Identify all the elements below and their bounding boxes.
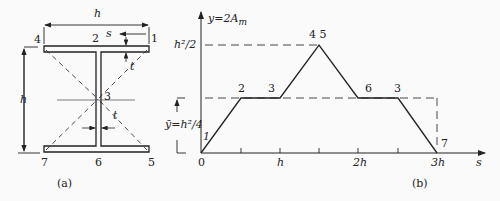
caption-a: (a) xyxy=(57,177,72,190)
flange-thickness-label: t xyxy=(130,60,135,73)
level-high-label: h²/2 xyxy=(174,38,196,51)
curve-point-3a: 3 xyxy=(268,82,275,95)
curve-point-3b: 3 xyxy=(394,82,401,95)
caption-b: (b) xyxy=(412,177,428,190)
s-label-a: s xyxy=(106,27,112,40)
x-ticks xyxy=(241,148,398,153)
height-label: h xyxy=(20,93,27,106)
point-label-5: 5 xyxy=(148,156,155,169)
origin-label: 0 xyxy=(198,156,205,169)
level-lines xyxy=(205,45,437,150)
tick-label-h: h xyxy=(277,156,284,169)
point-label-7: 7 xyxy=(41,156,48,169)
diagram-canvas: h s t t h 4 2 1 3 7 6 5 (a) xyxy=(0,0,500,201)
web-thickness-label: t xyxy=(113,109,118,122)
tick-label-2h: 2h xyxy=(352,156,367,169)
curve-point-1: 1 xyxy=(203,130,210,143)
point-label-3: 3 xyxy=(104,90,111,103)
y-axis-label: y=2Am xyxy=(207,12,247,27)
point-label-1: 1 xyxy=(151,32,158,45)
curve-point-4-5: 4 5 xyxy=(309,28,327,41)
x-axis-label: s xyxy=(476,156,482,169)
curve-point-7: 7 xyxy=(441,137,448,150)
diagram-svg: h s t t h 4 2 1 3 7 6 5 (a) xyxy=(0,0,500,201)
width-label: h xyxy=(94,7,101,20)
curve-point-2: 2 xyxy=(238,82,245,95)
y-curve xyxy=(201,45,437,153)
point-label-6: 6 xyxy=(95,156,102,169)
level-mid-label: ȳ=h²/4 xyxy=(164,118,203,131)
curve-point-6: 6 xyxy=(365,82,372,95)
point-label-2: 2 xyxy=(92,32,99,45)
tick-label-3h: 3h xyxy=(431,156,445,169)
point-label-4: 4 xyxy=(34,33,41,46)
